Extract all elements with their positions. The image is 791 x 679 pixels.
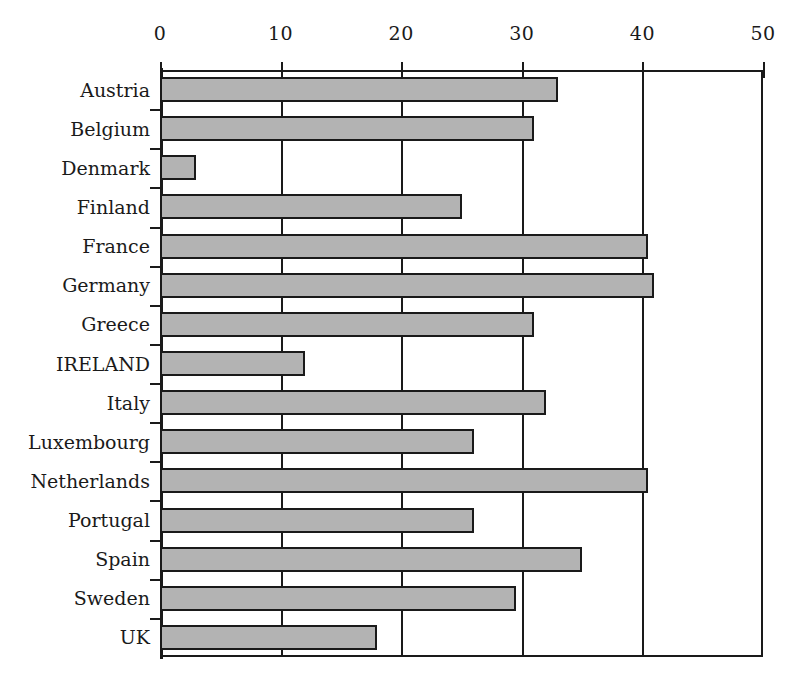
bar — [160, 468, 648, 493]
y-axis-tick-label: Finland — [77, 197, 150, 216]
y-tick — [150, 383, 160, 385]
y-axis-tick-label: Sweden — [74, 589, 150, 608]
y-tick — [150, 305, 160, 307]
y-tick — [150, 148, 160, 150]
y-axis-tick-label: UK — [120, 628, 150, 647]
y-tick — [150, 187, 160, 189]
y-axis-tick-label: Portugal — [68, 511, 150, 530]
x-tick-label-10: 10 — [268, 22, 293, 44]
bar — [160, 547, 582, 572]
x-tick-40 — [642, 62, 644, 78]
axis-bottom-line — [160, 655, 763, 657]
x-tick-label-0: 0 — [154, 22, 167, 44]
y-tick — [150, 618, 160, 620]
axis-top-line — [160, 70, 763, 72]
y-axis-tick-label: Germany — [62, 276, 150, 295]
x-tick-20 — [401, 62, 403, 78]
y-tick — [150, 500, 160, 502]
y-axis-tick-label: IRELAND — [56, 354, 150, 373]
bar — [160, 273, 654, 298]
y-axis-tick-label: Denmark — [61, 158, 150, 177]
y-axis-tick-label: Luxembourg — [28, 432, 150, 451]
y-axis-tick-label: Belgium — [70, 119, 150, 138]
x-tick-10 — [281, 62, 283, 78]
x-tick-50 — [763, 62, 765, 78]
axis-right-line — [761, 70, 763, 657]
bar — [160, 586, 516, 611]
y-tick — [150, 344, 160, 346]
bar — [160, 351, 305, 376]
y-tick — [150, 461, 160, 463]
bar — [160, 194, 462, 219]
y-axis-tick-label: Greece — [81, 315, 150, 334]
bar — [160, 77, 558, 102]
bar — [160, 390, 546, 415]
bar — [160, 508, 474, 533]
bar — [160, 429, 474, 454]
x-tick-30 — [522, 62, 524, 78]
y-tick — [150, 579, 160, 581]
x-tick-label-20: 20 — [389, 22, 414, 44]
bar — [160, 625, 377, 650]
bar — [160, 116, 534, 141]
x-tick-label-40: 40 — [630, 22, 655, 44]
y-axis-tick-label: Austria — [80, 80, 150, 99]
gridline-40 — [642, 70, 644, 657]
bar — [160, 234, 648, 259]
x-tick-label-50: 50 — [750, 22, 775, 44]
y-axis-tick-label: Netherlands — [30, 471, 150, 490]
y-tick — [150, 109, 160, 111]
y-axis-tick-label: Spain — [95, 550, 150, 569]
y-tick — [150, 227, 160, 229]
y-axis-tick-label: France — [82, 237, 150, 256]
bar — [160, 312, 534, 337]
plot-area — [160, 70, 763, 657]
y-tick — [150, 266, 160, 268]
x-tick-label-30: 30 — [509, 22, 534, 44]
y-tick — [150, 540, 160, 542]
bar-chart: AustriaBelgiumDenmarkFinlandFranceGerman… — [0, 0, 791, 679]
y-tick — [150, 422, 160, 424]
y-axis-labels: AustriaBelgiumDenmarkFinlandFranceGerman… — [0, 0, 150, 679]
bar — [160, 155, 196, 180]
y-axis-tick-label: Italy — [107, 393, 150, 412]
x-tick-0 — [160, 62, 162, 78]
